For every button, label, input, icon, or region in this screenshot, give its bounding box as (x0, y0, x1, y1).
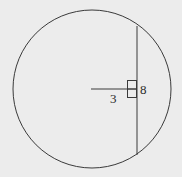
geometry-diagram: 3 8 (0, 0, 182, 177)
diagram-svg (0, 0, 182, 177)
half-chord-label: 8 (140, 83, 147, 96)
distance-label: 3 (110, 92, 117, 105)
